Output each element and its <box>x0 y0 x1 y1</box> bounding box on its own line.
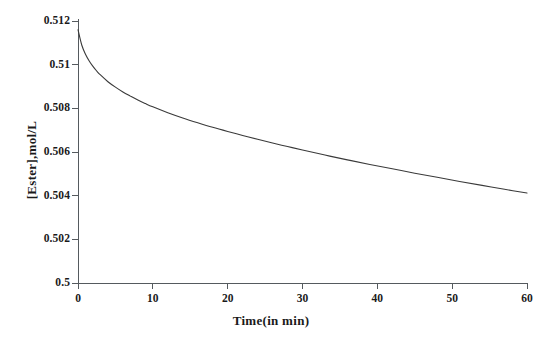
y-tick-mark <box>72 108 78 109</box>
x-tick-label: 60 <box>507 293 542 305</box>
y-tick-label: 0.506 <box>44 146 70 158</box>
x-axis-label: Time(in min) <box>0 313 542 329</box>
x-axis-line <box>78 283 528 284</box>
x-tick-mark <box>302 283 303 289</box>
y-tick-label: 0.512 <box>44 15 70 27</box>
x-tick-mark <box>152 283 153 289</box>
y-tick-mark <box>72 195 78 196</box>
x-tick-label: 0 <box>58 293 98 305</box>
data-curve <box>0 0 542 342</box>
y-tick-mark <box>72 239 78 240</box>
x-tick-label: 20 <box>208 293 248 305</box>
x-tick-mark <box>227 283 228 289</box>
chart-figure: 0.50.5020.5040.5060.5080.510.512 0102030… <box>0 0 542 342</box>
y-axis-line <box>78 19 79 284</box>
y-tick-label: 0.5 <box>55 277 70 289</box>
x-tick-label: 10 <box>133 293 173 305</box>
x-tick-label: 50 <box>432 293 472 305</box>
x-tick-mark <box>78 283 79 289</box>
y-tick-label: 0.51 <box>49 59 70 71</box>
x-tick-label: 30 <box>283 293 323 305</box>
y-tick-mark <box>72 21 78 22</box>
y-tick-mark <box>72 64 78 65</box>
x-tick-mark <box>452 283 453 289</box>
y-axis-label: [Ester],mol/L <box>24 85 40 235</box>
y-tick-mark <box>72 152 78 153</box>
x-tick-label: 40 <box>357 293 397 305</box>
y-tick-label: 0.502 <box>44 233 70 245</box>
x-tick-mark <box>527 283 528 289</box>
x-tick-mark <box>377 283 378 289</box>
y-tick-label: 0.504 <box>44 190 70 202</box>
y-tick-label: 0.508 <box>44 102 70 114</box>
